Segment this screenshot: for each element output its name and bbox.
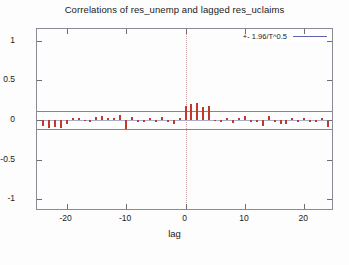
bar <box>42 120 44 126</box>
bar <box>274 120 276 122</box>
bar <box>54 120 56 127</box>
bar <box>268 116 270 120</box>
chart-title: Correlations of res_unemp and lagged res… <box>0 4 349 15</box>
bar <box>250 120 252 122</box>
bar <box>232 120 234 123</box>
x-axis-tick-label: -10 <box>105 213 145 223</box>
bar <box>60 120 62 128</box>
chart-figure: Correlations of res_unemp and lagged res… <box>0 0 349 265</box>
bar <box>78 118 80 120</box>
bar <box>202 107 204 120</box>
x-axis-tick-label: 0 <box>165 213 205 223</box>
bar <box>179 118 181 120</box>
bar <box>285 120 287 124</box>
bar <box>101 116 103 120</box>
x-axis-tick <box>186 204 187 209</box>
y-axis-tick <box>327 41 332 42</box>
bar <box>48 120 50 128</box>
plot-area: +- 1.96/T^0.5 <box>36 28 333 210</box>
plot-clip <box>37 29 332 209</box>
y-axis-tick <box>37 41 42 42</box>
y-axis-tick <box>37 80 42 81</box>
x-axis-tick <box>126 29 127 34</box>
bar <box>220 120 222 122</box>
y-axis-tick-label: -0.5 <box>0 154 15 164</box>
bar <box>214 120 216 121</box>
bar <box>262 120 264 126</box>
x-axis-label: lag <box>0 228 349 239</box>
bar <box>149 118 151 120</box>
bar <box>119 115 121 120</box>
bar <box>113 118 115 120</box>
bar <box>84 120 86 121</box>
bar <box>327 120 329 127</box>
x-axis-tick <box>245 204 246 209</box>
bar <box>167 120 169 122</box>
confidence-band-lower <box>37 129 332 130</box>
bar <box>291 118 293 120</box>
y-axis-tick <box>37 160 42 161</box>
bar <box>208 106 210 120</box>
bar <box>72 118 74 120</box>
x-axis-tick <box>126 204 127 209</box>
x-axis-tick <box>304 29 305 34</box>
bar <box>196 103 198 120</box>
bar <box>190 104 192 120</box>
y-axis-tick <box>327 120 332 121</box>
bar <box>321 118 323 120</box>
y-axis-tick <box>327 80 332 81</box>
y-axis-tick-label: 1 <box>0 35 15 45</box>
y-axis-tick-label: 0.5 <box>0 74 15 84</box>
bar <box>155 120 157 122</box>
x-axis-tick <box>245 29 246 34</box>
chart-legend: +- 1.96/T^0.5 <box>240 31 330 42</box>
bar <box>143 120 145 122</box>
x-axis-tick <box>186 29 187 34</box>
bar <box>95 117 97 120</box>
bar <box>297 120 299 122</box>
bar <box>309 120 311 122</box>
bar <box>137 120 139 122</box>
y-axis-tick <box>327 160 332 161</box>
bar <box>256 120 258 122</box>
y-axis-tick-label: 0 <box>0 114 15 124</box>
bar <box>185 106 187 120</box>
x-axis-tick-label: 10 <box>224 213 264 223</box>
bar <box>125 120 127 129</box>
bar <box>161 117 163 120</box>
bar <box>280 120 282 124</box>
legend-line-swatch <box>293 36 327 37</box>
bar <box>226 118 228 120</box>
bar <box>238 118 240 120</box>
x-axis-tick <box>304 204 305 209</box>
y-axis-tick <box>37 199 42 200</box>
legend-label: +- 1.96/T^0.5 <box>243 32 287 41</box>
bar <box>89 120 91 122</box>
bar <box>173 120 175 124</box>
x-axis-tick-label: 20 <box>283 213 323 223</box>
x-axis-tick <box>67 29 68 34</box>
y-axis-tick <box>37 120 42 121</box>
x-axis-tick <box>67 204 68 209</box>
bar <box>244 116 246 120</box>
bar <box>315 120 317 122</box>
bar <box>303 118 305 120</box>
x-axis-tick-label: -20 <box>46 213 86 223</box>
bar <box>131 117 133 120</box>
y-axis-tick-label: -1 <box>0 193 15 203</box>
bar <box>66 120 68 124</box>
bar <box>107 118 109 120</box>
y-axis-tick <box>327 199 332 200</box>
zero-reference-line <box>37 120 332 121</box>
